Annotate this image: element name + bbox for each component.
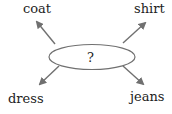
arrow-shirt [123, 23, 145, 43]
node-shirt: shirt [134, 2, 165, 15]
arrow-jeans [123, 66, 143, 84]
arrow-coat [37, 22, 55, 44]
node-dress: dress [8, 92, 44, 105]
node-jeans: jeans [130, 90, 165, 103]
arrow-dress [40, 66, 59, 84]
node-coat: coat [23, 2, 51, 15]
center-label: ? [87, 51, 94, 64]
